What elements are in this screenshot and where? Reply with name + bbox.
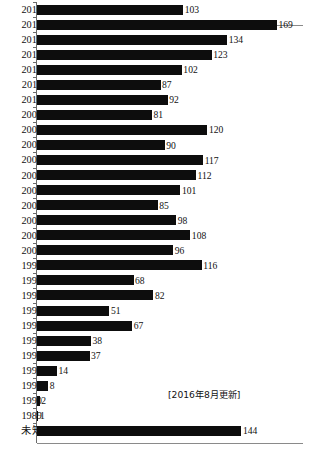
bar-row: 2016103 — [0, 2, 310, 17]
category-label: 2011 — [0, 78, 42, 91]
bar-row: 1999116 — [0, 258, 310, 273]
category-label: 1996 — [0, 304, 42, 317]
category-label: 2009 — [0, 108, 42, 121]
category-label: 2002 — [0, 214, 42, 227]
bar-wrapper: 120 — [37, 125, 207, 135]
bar-row: 199782 — [0, 288, 310, 303]
category-label: 2001 — [0, 229, 42, 242]
bar-row: 200790 — [0, 137, 310, 152]
bar — [37, 140, 165, 150]
bar-row: 201187 — [0, 77, 310, 92]
bar — [37, 95, 168, 105]
bar — [37, 290, 153, 300]
bar-row: 19891 — [0, 408, 310, 423]
bar-row: 2004101 — [0, 183, 310, 198]
bar-value-label: 67 — [134, 320, 144, 331]
category-label: 1992 — [0, 364, 42, 377]
bar-wrapper: 169 — [37, 20, 277, 30]
bar-row: 199567 — [0, 318, 310, 333]
category-label: 2008 — [0, 123, 42, 136]
bar — [37, 35, 227, 45]
category-label: 2012 — [0, 63, 42, 76]
bar-wrapper: 102 — [37, 65, 182, 75]
update-annotation: [2016年8月更新] — [168, 387, 240, 401]
bar-value-label: 51 — [111, 305, 121, 316]
bar — [37, 321, 132, 331]
chart-bottom-rule — [37, 443, 303, 444]
bar-value-label: 117 — [205, 155, 219, 166]
bar-wrapper: 90 — [37, 140, 165, 150]
bar — [37, 275, 134, 285]
bar-row: 2001108 — [0, 228, 310, 243]
bar-row: 199214 — [0, 363, 310, 378]
bar-wrapper: 37 — [37, 351, 90, 361]
bar-value-label: 8 — [50, 380, 55, 391]
bar-value-label: 108 — [192, 230, 206, 241]
bar-value-label: 169 — [278, 19, 292, 30]
bar-row: 19902 — [0, 393, 310, 408]
bar — [37, 125, 207, 135]
bar-value-label: 98 — [178, 215, 188, 226]
bar — [37, 230, 190, 240]
bar — [37, 200, 158, 210]
bar-row: 200385 — [0, 198, 310, 213]
bar — [37, 351, 90, 361]
category-label: 未知 — [0, 424, 42, 437]
bar — [37, 155, 203, 165]
bar-row: 19918 — [0, 378, 310, 393]
bar-row: 200096 — [0, 243, 310, 258]
bar-wrapper: 92 — [37, 95, 168, 105]
bar-value-label: 120 — [209, 124, 223, 135]
bar-row: 2006117 — [0, 152, 310, 167]
bar-value-label: 144 — [243, 425, 257, 436]
bar-wrapper: 2 — [37, 396, 40, 406]
category-label: 1991 — [0, 379, 42, 392]
category-label: 1998 — [0, 274, 42, 287]
bar-rows-container: 2016103201516920141342013123201210220118… — [0, 2, 310, 438]
category-label: 2010 — [0, 93, 42, 106]
category-label: 1989 — [0, 409, 42, 422]
bar-row: 未知144 — [0, 423, 310, 438]
bar-value-label: 87 — [162, 79, 172, 90]
bar-wrapper: 98 — [37, 215, 176, 225]
bar-wrapper: 1 — [37, 411, 38, 421]
bar-wrapper: 112 — [37, 170, 196, 180]
bar-row: 2015169 — [0, 17, 310, 32]
bar-value-label: 134 — [229, 34, 243, 45]
bar — [37, 366, 57, 376]
category-label: 1994 — [0, 334, 42, 347]
bar — [37, 245, 173, 255]
bar-wrapper: 144 — [37, 426, 241, 436]
bar-value-label: 123 — [213, 49, 227, 60]
bar-row: 199868 — [0, 273, 310, 288]
bar-value-label: 2 — [41, 395, 46, 406]
bar-value-label: 92 — [169, 94, 179, 105]
bar-wrapper: 51 — [37, 306, 109, 316]
bar — [37, 185, 180, 195]
bar-value-label: 81 — [154, 109, 164, 120]
category-label: 2004 — [0, 184, 42, 197]
category-label: 1999 — [0, 259, 42, 272]
bar-wrapper: 68 — [37, 275, 134, 285]
bar-value-label: 101 — [182, 185, 196, 196]
bar-value-label: 38 — [92, 335, 102, 346]
bar-wrapper: 8 — [37, 381, 48, 391]
category-label: 1995 — [0, 319, 42, 332]
bar-row: 200981 — [0, 107, 310, 122]
bar-wrapper: 123 — [37, 50, 212, 60]
bar-row: 2013123 — [0, 47, 310, 62]
bar-row: 2008120 — [0, 122, 310, 137]
bar-wrapper: 108 — [37, 230, 190, 240]
bar-wrapper: 82 — [37, 290, 153, 300]
bar-value-label: 112 — [198, 170, 212, 181]
category-label: 2014 — [0, 33, 42, 46]
horizontal-bar-chart: 2016103201516920141342013123201210220118… — [0, 0, 310, 451]
bar — [37, 50, 212, 60]
bar-value-label: 103 — [185, 4, 199, 15]
bar-row: 201092 — [0, 92, 310, 107]
category-label: 2006 — [0, 153, 42, 166]
bar — [37, 411, 38, 421]
bar — [37, 170, 196, 180]
bar-wrapper: 38 — [37, 336, 91, 346]
category-label: 1993 — [0, 349, 42, 362]
